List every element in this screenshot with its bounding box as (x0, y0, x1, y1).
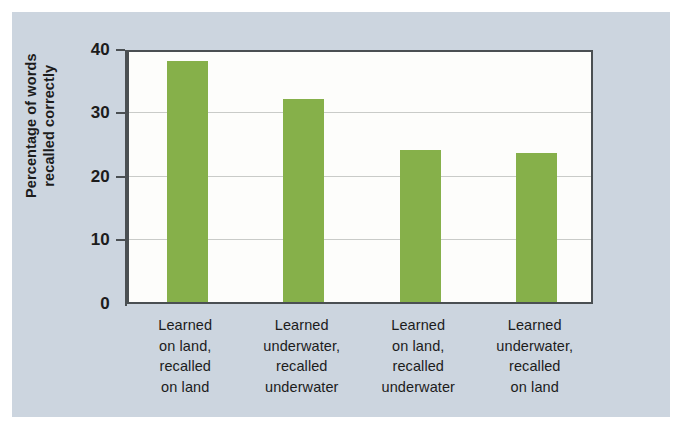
x-category-line: underwater (360, 377, 477, 398)
x-category-line: Learned (477, 315, 594, 336)
x-category-line: Learned (360, 315, 477, 336)
x-category-label-3: Learnedon land,recalledunderwater (360, 315, 477, 397)
bars-layer (129, 52, 591, 302)
bar-learned-underwater-recalled-underwater[interactable] (283, 99, 324, 302)
x-category-line: Learned (244, 315, 361, 336)
x-category-line: recalled (244, 356, 361, 377)
y-tick-label-10: 10 (70, 230, 110, 250)
x-category-line: underwater, (477, 336, 594, 357)
y-tick-label-30-wrap: 30 (62, 103, 110, 123)
x-category-label-4: Learnedunderwater,recalledon land (477, 315, 594, 397)
y-tick-label-40: 40 (70, 40, 110, 60)
plot-area (127, 50, 593, 304)
y-tick-label-20: 20 (70, 167, 110, 187)
y-tick-label-20-wrap: 20 (62, 167, 110, 187)
y-tick-label-0: 0 (70, 294, 110, 314)
y-tick-mark-40 (116, 49, 125, 51)
x-category-line: underwater (244, 377, 361, 398)
y-tick-mark-10 (116, 239, 125, 241)
x-category-line: on land (127, 377, 244, 398)
x-category-label-1: Learnedon land,recalledon land (127, 315, 244, 397)
x-category-line: on land, (127, 336, 244, 357)
x-category-line: on land, (360, 336, 477, 357)
x-category-line: recalled (127, 356, 244, 377)
x-category-label-2: Learnedunderwater,recalledunderwater (244, 315, 361, 397)
bar-learned-underwater-recalled-on-land[interactable] (516, 153, 557, 302)
x-category-line: on land (477, 377, 594, 398)
x-category-line: Learned (127, 315, 244, 336)
y-tick-label-10-wrap: 10 (62, 230, 110, 250)
x-category-line: underwater, (244, 336, 361, 357)
bar-learned-on-land-recalled-on-land[interactable] (167, 61, 208, 302)
y-tick-label-0-wrap: 0 (62, 294, 110, 314)
figure-container: Percentage of words recalled correctly 4… (0, 0, 680, 431)
x-axis-category-labels: Learnedon land,recalledon land Learnedun… (127, 315, 593, 410)
x-category-line: recalled (360, 356, 477, 377)
y-tick-mark-30 (116, 112, 125, 114)
x-category-line: recalled (477, 356, 594, 377)
y-axis-title: Percentage of words recalled correctly (23, 31, 58, 221)
bar-learned-on-land-recalled-underwater[interactable] (400, 150, 441, 302)
y-tick-label-40-wrap: 40 (62, 40, 110, 60)
y-tick-label-30: 30 (70, 103, 110, 123)
y-tick-mark-20 (116, 176, 125, 178)
